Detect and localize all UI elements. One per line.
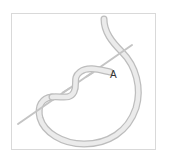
knot-illustration <box>0 0 170 162</box>
thread <box>39 19 138 144</box>
label-a: A <box>110 70 117 80</box>
thread-wraps <box>52 69 110 97</box>
